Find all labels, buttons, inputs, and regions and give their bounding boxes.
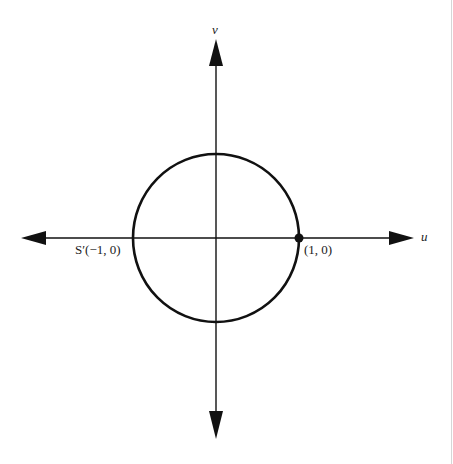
point-1-0-label: (1, 0) [304, 243, 332, 256]
v-axis-label: v [212, 23, 218, 36]
v-axis-top-arrowhead-icon [209, 39, 223, 66]
u-axis-left-arrowhead-icon [21, 231, 46, 245]
page-edge-divider [451, 0, 452, 464]
v-axis-bottom-arrowhead-icon [209, 411, 223, 439]
diagram-svg [0, 0, 453, 464]
point-1-0-marker [295, 234, 304, 243]
u-axis-label: u [421, 230, 428, 243]
u-axis-right-arrowhead-icon [389, 231, 414, 245]
diagram-canvas: v u S′(−1, 0) (1, 0) [0, 0, 453, 464]
point-s-prime-label: S′(−1, 0) [75, 243, 121, 256]
